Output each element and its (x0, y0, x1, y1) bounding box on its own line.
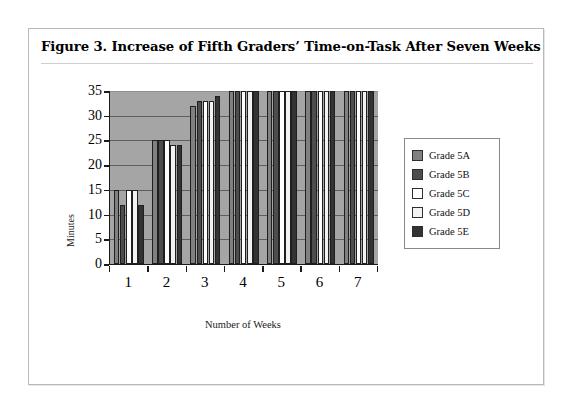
bar-group (267, 91, 298, 264)
bar (126, 190, 132, 264)
legend-label: Grade 5D (429, 207, 470, 218)
y-tick-label: 30 (74, 108, 102, 124)
title-divider (41, 63, 533, 64)
x-tick-mark (109, 266, 110, 272)
legend-swatch-icon (412, 150, 423, 161)
bar (330, 91, 336, 264)
legend-swatch-icon (412, 226, 423, 237)
figure-frame: Figure 3. Increase of Fifth Graders’ Tim… (28, 28, 544, 385)
x-tick-mark (377, 266, 378, 272)
y-tick-mark (104, 215, 109, 217)
legend-swatch-icon (412, 169, 423, 180)
x-tick-label: 1 (108, 274, 148, 291)
bar (215, 96, 221, 264)
bar (273, 91, 279, 264)
bar-group (114, 91, 145, 264)
chart-legend: Grade 5AGrade 5BGrade 5CGrade 5DGrade 5E (404, 138, 500, 249)
y-tick-label: 15 (74, 182, 102, 198)
bar (170, 145, 176, 264)
x-tick-mark (339, 266, 340, 272)
legend-item: Grade 5C (412, 184, 493, 203)
bar-chart: Minutes 05101520253035 1234567 Number of… (29, 73, 545, 378)
x-tick-mark (262, 266, 263, 272)
y-tick-mark (104, 116, 109, 118)
bar (267, 91, 273, 264)
bar (253, 91, 259, 264)
bar (324, 91, 330, 264)
y-tick-mark (104, 91, 109, 93)
x-tick-mark (300, 266, 301, 272)
bar (190, 106, 196, 264)
y-tick-label: 0 (74, 256, 102, 272)
bar-group (305, 91, 336, 264)
x-tick-mark (224, 266, 225, 272)
bar (305, 91, 311, 264)
bar (132, 190, 138, 264)
legend-label: Grade 5B (429, 169, 470, 180)
legend-swatch-icon (412, 188, 423, 199)
x-tick-mark (186, 266, 187, 272)
bar (247, 91, 253, 264)
legend-label: Grade 5E (429, 226, 469, 237)
bar-group (152, 91, 183, 264)
bar (241, 91, 247, 264)
bar-group (190, 91, 221, 264)
y-tick-label: 10 (74, 207, 102, 223)
y-tick-label: 20 (74, 157, 102, 173)
y-tick-mark (104, 165, 109, 167)
x-tick-label: 4 (223, 274, 263, 291)
plot-area (109, 91, 378, 265)
legend-item: Grade 5E (412, 222, 493, 241)
legend-label: Grade 5C (429, 188, 470, 199)
bar (229, 91, 235, 264)
bar (114, 190, 120, 264)
x-tick-label: 3 (185, 274, 225, 291)
y-tick-label: 5 (74, 231, 102, 247)
bar (318, 91, 324, 264)
bar (235, 91, 241, 264)
bar (203, 101, 209, 264)
bar (120, 205, 126, 264)
bar (285, 91, 291, 264)
y-tick-mark (104, 140, 109, 142)
bar (311, 91, 317, 264)
y-tick-mark (104, 190, 109, 192)
bar (197, 101, 203, 264)
bar (291, 91, 297, 264)
y-tick-mark (104, 239, 109, 241)
bar (362, 91, 368, 264)
bar (368, 91, 374, 264)
page-title: Figure 3. Increase of Fifth Graders’ Tim… (41, 39, 533, 54)
x-tick-label: 5 (261, 274, 301, 291)
bar (158, 140, 164, 264)
legend-item: Grade 5A (412, 146, 493, 165)
y-tick-label: 25 (74, 132, 102, 148)
bar (350, 91, 356, 264)
bar (209, 101, 215, 264)
legend-swatch-icon (412, 207, 423, 218)
bar (344, 91, 350, 264)
legend-item: Grade 5D (412, 203, 493, 222)
bar-group (344, 91, 375, 264)
x-tick-label: 2 (146, 274, 186, 291)
legend-item: Grade 5B (412, 165, 493, 184)
bar-group (229, 91, 260, 264)
x-tick-mark (147, 266, 148, 272)
y-tick-label: 35 (74, 83, 102, 99)
x-axis-title: Number of Weeks (109, 319, 377, 330)
x-tick-label: 6 (300, 274, 340, 291)
bar (152, 140, 158, 264)
bar (164, 140, 170, 264)
legend-label: Grade 5A (429, 150, 470, 161)
bars-layer (110, 91, 378, 264)
bar (356, 91, 362, 264)
x-tick-label: 7 (338, 274, 378, 291)
bar (177, 145, 183, 264)
bar (138, 205, 144, 264)
bar (279, 91, 285, 264)
